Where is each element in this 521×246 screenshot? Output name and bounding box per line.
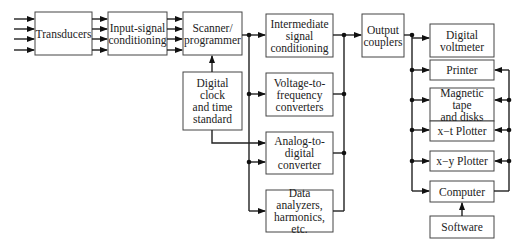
printer-label: Printer [430, 60, 494, 80]
analyzers-label: Data analyzers, harmonics, etc. [266, 190, 333, 232]
clock-label: Digital clock and time standard [183, 72, 242, 130]
tape-label: Magnetic tape and disks [430, 88, 494, 121]
software-label: Software [430, 216, 494, 238]
couplers-label: Output couplers [362, 14, 404, 57]
scanner-label: Scanner/ programmer [183, 12, 242, 55]
vtof-label: Voltage-to- frequency converters [266, 73, 333, 116]
transducers-label: Transducers [35, 12, 92, 55]
input-conditioning-label: Input-signal conditioning [108, 12, 167, 55]
output-bus [404, 33, 429, 191]
collector-bus [333, 33, 361, 211]
adc-label: Analog-to- digital converter [266, 132, 333, 174]
computer-label: Computer [430, 181, 494, 202]
xt-plotter-label: x−t Plotter [430, 121, 494, 141]
xy-plotter-label: x−y Plotter [430, 151, 494, 171]
intermediate-label: Intermediate signal conditioning [266, 14, 333, 57]
scanner-bus [242, 33, 265, 211]
voltmeter-label: Digital voltmeter [430, 24, 494, 57]
